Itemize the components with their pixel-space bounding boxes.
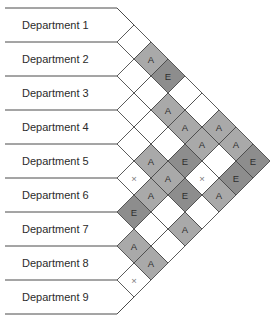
relationship-code: A <box>182 224 189 235</box>
department-label: Department 3 <box>22 87 89 99</box>
department-label: Department 6 <box>22 189 89 201</box>
relationship-code: E <box>131 207 137 218</box>
relationship-code: A <box>216 190 223 201</box>
relationship-code: E <box>182 190 188 201</box>
relationship-code: A <box>216 122 223 133</box>
relationship-code: E <box>233 173 239 184</box>
department-label: Department 1 <box>22 19 89 31</box>
department-label: Department 8 <box>22 257 89 269</box>
department-label: Department 7 <box>22 223 89 235</box>
relationship-code: E <box>182 156 188 167</box>
department-label: Department 4 <box>22 121 89 133</box>
relationship-code: A <box>199 139 206 150</box>
relationship-code: A <box>165 173 172 184</box>
relationship-code: E <box>250 156 256 167</box>
relationship-code: A <box>233 139 240 150</box>
relationship-code: A <box>148 258 155 269</box>
relationship-code: × <box>131 173 137 184</box>
relationship-code: × <box>199 173 205 184</box>
relationship-code: A <box>165 105 172 116</box>
relationship-code: E <box>165 71 171 82</box>
department-label: Department 5 <box>22 155 89 167</box>
department-label: Department 9 <box>22 291 89 303</box>
department-rows: Department 1Department 2Department 3Depa… <box>5 8 134 314</box>
relationship-code: A <box>148 190 155 201</box>
relationship-code: × <box>131 275 137 286</box>
relationship-code: A <box>182 122 189 133</box>
relationship-code: A <box>131 241 138 252</box>
relationship-code: A <box>148 156 155 167</box>
department-label: Department 2 <box>22 53 89 65</box>
relationship-chart: Department 1Department 2Department 3Depa… <box>0 0 271 321</box>
relationship-code: A <box>148 54 155 65</box>
relationship-grid: AEAAEAAAEE×AAAE×AAEAA× <box>117 25 270 297</box>
